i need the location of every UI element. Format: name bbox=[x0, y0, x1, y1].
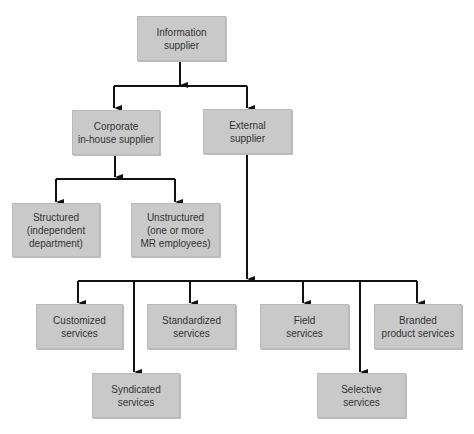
node-branded-product-services: Branded product services bbox=[374, 304, 462, 349]
node-label: Branded product services bbox=[382, 314, 455, 340]
node-label: External supplier bbox=[229, 119, 266, 145]
node-label: Corporate in-house supplier bbox=[78, 120, 154, 146]
node-label: Selective services bbox=[341, 383, 382, 409]
node-label: Syndicated services bbox=[111, 383, 160, 409]
node-unstructured: Unstructured (one or more MR employees) bbox=[131, 203, 220, 257]
node-label: Structured (independent department) bbox=[27, 211, 85, 250]
node-label: Field services bbox=[286, 314, 323, 340]
node-customized-services: Customized services bbox=[36, 304, 123, 349]
node-information-supplier: Information supplier bbox=[137, 16, 226, 61]
org-diagram: Information supplier Corporate in-house … bbox=[0, 0, 474, 434]
node-label: Standardized services bbox=[162, 314, 221, 340]
node-label: Information supplier bbox=[156, 26, 206, 52]
node-label: Customized services bbox=[53, 314, 106, 340]
node-selective-services: Selective services bbox=[317, 373, 406, 418]
node-structured: Structured (independent department) bbox=[12, 203, 100, 257]
node-syndicated-services: Syndicated services bbox=[92, 373, 180, 418]
node-field-services: Field services bbox=[260, 304, 349, 349]
node-standardized-services: Standardized services bbox=[147, 304, 236, 349]
node-external-supplier: External supplier bbox=[203, 109, 292, 154]
node-label: Unstructured (one or more MR employees) bbox=[140, 211, 210, 250]
node-corporate-in-house-supplier: Corporate in-house supplier bbox=[72, 110, 160, 155]
